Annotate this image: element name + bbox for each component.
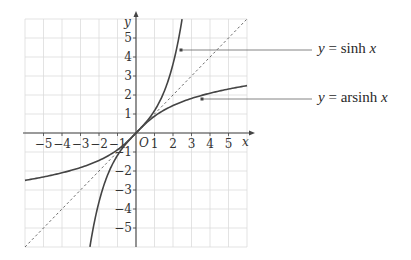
x-tick-label: 5 bbox=[225, 137, 233, 151]
x-tick-label: −5 bbox=[35, 137, 53, 151]
legend-sinh-x: x bbox=[369, 40, 376, 56]
x-tick-labels: −5−4−3−2−112345 bbox=[35, 137, 233, 151]
x-tick-label: −4 bbox=[53, 137, 71, 151]
legend-leaders bbox=[180, 49, 313, 101]
legend-sinh-fn: = sinh bbox=[325, 40, 370, 56]
y-axis-arrow-icon bbox=[134, 11, 139, 17]
leader-dot-arsinh bbox=[201, 98, 204, 101]
x-tick-label: −3 bbox=[72, 137, 90, 151]
x-tick-label: −2 bbox=[90, 137, 108, 151]
x-tick-label: 3 bbox=[188, 137, 196, 151]
legend-arsinh-fn: = arsinh bbox=[325, 89, 381, 105]
y-tick-label: 4 bbox=[124, 50, 132, 64]
y-tick-label: 1 bbox=[124, 107, 132, 121]
legend-label-arsinh: y = arsinh x bbox=[318, 89, 388, 106]
y-tick-label: 2 bbox=[124, 88, 132, 102]
legend-label-sinh: y = sinh x bbox=[318, 40, 376, 57]
x-axis-label: x bbox=[242, 135, 249, 149]
y-tick-label: 5 bbox=[124, 31, 132, 45]
y-tick-label: −4 bbox=[114, 202, 132, 216]
y-tick-label: 3 bbox=[124, 69, 132, 83]
origin-label: O bbox=[139, 136, 149, 150]
legend-sinh-y: y bbox=[318, 40, 325, 56]
y-tick-label: −5 bbox=[114, 221, 132, 235]
legend-arsinh-x: x bbox=[381, 89, 388, 105]
y-tick-label: −3 bbox=[114, 183, 132, 197]
leader-dot-sinh bbox=[180, 49, 183, 52]
y-axis-label: y bbox=[123, 15, 131, 29]
x-tick-label: 4 bbox=[206, 137, 214, 151]
y-tick-label: −2 bbox=[114, 164, 132, 178]
x-axis-arrow-icon bbox=[249, 131, 255, 136]
chart: −5−4−3−2−112345 −5−4−3−2−112345 x y O bbox=[0, 0, 411, 260]
x-tick-label: 1 bbox=[151, 137, 159, 151]
legend-arsinh-y: y bbox=[318, 89, 325, 105]
x-tick-label: 2 bbox=[169, 137, 177, 151]
